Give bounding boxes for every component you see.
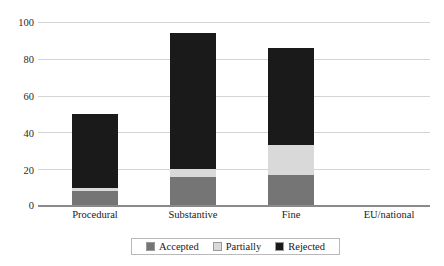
bar-segment-rejected[interactable] bbox=[72, 114, 118, 188]
legend-label-partially: Partially bbox=[226, 241, 262, 252]
bar-stack-procedural bbox=[72, 114, 118, 206]
x-tick-label-procedural: Procedural bbox=[45, 208, 145, 222]
y-tick-label-60: 60 bbox=[2, 92, 34, 103]
chart-legend: Accepted Partially Rejected bbox=[131, 238, 340, 255]
gridline-60 bbox=[38, 96, 430, 97]
y-tick-label-40: 40 bbox=[2, 129, 34, 140]
bar-segment-rejected[interactable] bbox=[170, 33, 216, 169]
x-tick-label-substantive: Substantive bbox=[143, 208, 243, 222]
gridline-100 bbox=[38, 22, 430, 23]
legend-item-accepted[interactable]: Accepted bbox=[146, 241, 199, 252]
legend-label-rejected: Rejected bbox=[288, 241, 325, 252]
y-tick-label-0: 0 bbox=[2, 201, 34, 212]
legend-label-accepted: Accepted bbox=[159, 241, 199, 252]
bar-segment-partially[interactable] bbox=[268, 145, 314, 174]
bar-segment-rejected[interactable] bbox=[268, 48, 314, 146]
bar-stack-fine bbox=[268, 48, 314, 206]
stacked-bar-chart: 100 80 60 40 20 0 bbox=[0, 0, 444, 266]
y-tick-label-80: 80 bbox=[2, 55, 34, 66]
legend-item-rejected[interactable]: Rejected bbox=[275, 241, 325, 252]
legend-item-partially[interactable]: Partially bbox=[213, 241, 262, 252]
bar-segment-accepted[interactable] bbox=[72, 191, 118, 206]
y-tick-label-20: 20 bbox=[2, 166, 34, 177]
bar-segment-accepted[interactable] bbox=[268, 175, 314, 206]
legend-swatch-accepted bbox=[146, 242, 155, 251]
x-axis-line bbox=[38, 205, 430, 207]
x-tick-label-fine: Fine bbox=[241, 208, 341, 222]
plot-area bbox=[38, 22, 430, 206]
gridline-80 bbox=[38, 59, 430, 60]
bar-segment-partially[interactable] bbox=[170, 169, 216, 176]
bar-segment-accepted[interactable] bbox=[170, 177, 216, 206]
legend-swatch-partially bbox=[213, 242, 222, 251]
legend-swatch-rejected bbox=[275, 242, 284, 251]
y-tick-label-100: 100 bbox=[2, 18, 34, 29]
x-axis: Procedural Substantive Fine EU/national bbox=[38, 208, 430, 226]
x-tick-label-eu-national: EU/national bbox=[339, 208, 439, 222]
bar-stack-substantive bbox=[170, 33, 216, 206]
y-axis: 100 80 60 40 20 0 bbox=[0, 0, 34, 266]
